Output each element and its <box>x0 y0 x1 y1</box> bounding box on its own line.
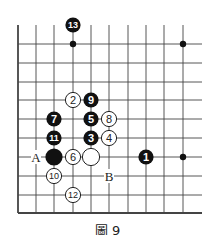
svg-text:1: 1 <box>143 151 149 163</box>
white-stone-8: 8 <box>101 111 116 126</box>
white-stone-10: 10 <box>46 168 61 183</box>
marker-label-b: B <box>105 169 114 184</box>
black-stone-13: 13 <box>65 17 80 32</box>
svg-text:10: 10 <box>49 171 59 181</box>
white-stone-12: 12 <box>65 187 80 202</box>
white-stone-2: 2 <box>65 92 80 107</box>
marker-label-a: A <box>31 150 41 165</box>
black-stone-9: 9 <box>83 92 98 107</box>
svg-text:7: 7 <box>51 113 57 125</box>
black-stone-1: 1 <box>138 149 153 164</box>
figure-caption: 圖 9 <box>0 220 215 235</box>
svg-text:11: 11 <box>49 133 59 143</box>
svg-text:4: 4 <box>106 132 112 144</box>
svg-text:12: 12 <box>68 190 78 200</box>
white-stone <box>82 148 99 165</box>
black-stone <box>45 148 62 165</box>
star-point <box>70 41 76 47</box>
svg-text:13: 13 <box>68 20 78 30</box>
stones: 13297581134611012 <box>45 17 153 202</box>
black-stone-7: 7 <box>46 111 61 126</box>
star-point <box>180 41 186 47</box>
svg-text:5: 5 <box>88 113 94 125</box>
white-stone-6: 6 <box>65 149 80 164</box>
black-stone-3: 3 <box>83 130 98 145</box>
star-point <box>180 154 186 160</box>
svg-text:6: 6 <box>70 151 76 163</box>
white-stone-4: 4 <box>101 130 116 145</box>
svg-text:2: 2 <box>70 94 76 106</box>
svg-text:8: 8 <box>106 113 112 125</box>
svg-text:9: 9 <box>88 94 94 106</box>
black-stone-5: 5 <box>83 111 98 126</box>
black-stone-11: 11 <box>46 130 61 145</box>
svg-text:3: 3 <box>88 132 94 144</box>
go-board-diagram: AB 13297581134611012 <box>0 0 215 218</box>
